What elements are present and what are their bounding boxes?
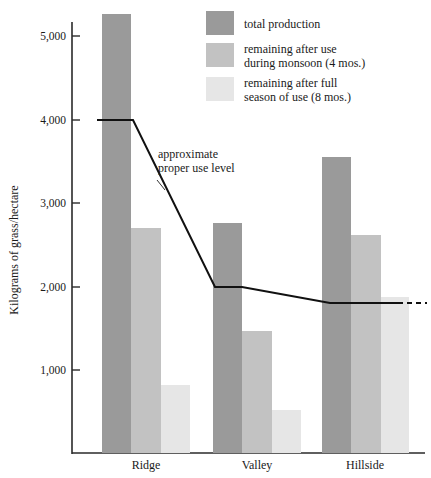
legend: total production remaining after use dur… (206, 11, 365, 104)
bar-hillside-total (322, 157, 351, 453)
bar-ridge-fullseason (161, 385, 190, 453)
annotation-line-1: approximate (158, 147, 218, 161)
bar-valley-monsoon (242, 331, 272, 453)
bar-valley-total (213, 223, 242, 453)
legend-label-remaining-monsoon-line-2: during monsoon (4 mos.) (244, 56, 365, 70)
y-axis-title: Kilograms of grass/hectare (7, 185, 21, 314)
legend-label-remaining-full-season-line-1: remaining after full (244, 76, 338, 90)
bar-ridge-monsoon (131, 228, 161, 453)
legend-swatch-remaining-monsoon (206, 43, 234, 67)
y-tick-label-5000: 5,000 (40, 30, 66, 43)
legend-item-total-production: total production (206, 11, 320, 35)
chart-container: 5,000 4,000 3,000 2,000 1,000 Kilograms … (0, 0, 431, 478)
legend-swatch-remaining-full-season (206, 77, 234, 101)
bar-valley-fullseason (272, 410, 301, 453)
bar-chart: 5,000 4,000 3,000 2,000 1,000 Kilograms … (0, 0, 431, 478)
legend-swatch-total-production (206, 11, 234, 35)
y-tick-label-1000: 1,000 (40, 364, 66, 377)
bar-hillside-monsoon (351, 235, 381, 453)
y-tick-label-3000: 3,000 (40, 197, 66, 210)
legend-item-remaining-monsoon: remaining after use during monsoon (4 mo… (206, 42, 365, 70)
bar-hillside-fullseason (381, 297, 409, 453)
legend-label-total-production-line-1: total production (244, 17, 320, 31)
x-tick-label-hillside: Hillside (346, 458, 384, 472)
x-tick-label-valley: Valley (242, 458, 273, 472)
bar-ridge-total (102, 14, 131, 453)
x-tick-label-ridge: Ridge (132, 458, 161, 472)
annotation-line-2: proper use level (158, 161, 235, 175)
legend-item-remaining-full-season: remaining after full season of use (8 mo… (206, 76, 351, 104)
legend-label-remaining-monsoon-line-1: remaining after use (244, 42, 337, 56)
legend-label-remaining-full-season-line-2: season of use (8 mos.) (244, 90, 351, 104)
y-tick-label-4000: 4,000 (40, 114, 66, 127)
y-tick-label-2000: 2,000 (40, 281, 66, 294)
